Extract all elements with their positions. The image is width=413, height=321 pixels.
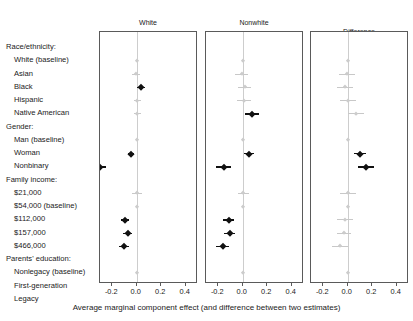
row-label: Black (14, 82, 33, 91)
row-group-label: Race/ethnicity: (6, 42, 56, 51)
row-label: $466,000 (14, 241, 46, 250)
x-axis-tick (266, 283, 267, 286)
x-axis-tick-label: 0.4 (180, 287, 190, 296)
x-axis-tick (242, 283, 243, 286)
x-axis-tick-label: -0.2 (316, 287, 329, 296)
estimate-point (127, 150, 133, 156)
row-group-label: Parents' education: (6, 254, 71, 263)
estimate-point (240, 138, 245, 143)
x-axis-tick-label: 0.4 (391, 287, 401, 296)
x-axis-tick (185, 283, 186, 286)
estimate-point (134, 72, 139, 77)
x-axis-tick (396, 283, 397, 286)
estimate-point (99, 164, 103, 170)
estimate-point (121, 243, 127, 249)
row-label: $21,000 (14, 188, 41, 197)
panel-nonwhite (205, 31, 303, 283)
estimate-point (240, 58, 245, 63)
panel-title-nonwhite-label: Nonwhite (205, 19, 303, 27)
estimate-point (345, 191, 350, 196)
estimate-point (345, 204, 350, 209)
x-axis-tick (217, 283, 218, 286)
estimate-point (346, 98, 351, 103)
estimate-point (225, 217, 231, 223)
estimate-point (246, 150, 252, 156)
row-label: Nonbinary (14, 161, 49, 170)
x-axis-tick-label: 0.2 (261, 287, 271, 296)
estimate-point (345, 58, 350, 63)
row-label: First-generation (14, 281, 67, 290)
estimate-point (363, 164, 369, 170)
x-axis-tick (291, 283, 292, 286)
estimate-point (124, 230, 130, 236)
row-label: Woman (14, 148, 40, 157)
x-axis-tick (111, 283, 112, 286)
estimate-point (249, 111, 255, 117)
estimate-point (357, 150, 363, 156)
x-axis-tick (136, 283, 137, 286)
row-label: Nonlegacy (baseline) (14, 267, 85, 276)
row-label: $112,000 (14, 214, 45, 223)
row-label: Native American (14, 108, 69, 117)
estimate-point (135, 191, 140, 196)
row-label: Asian (14, 69, 33, 78)
estimate-point (135, 111, 140, 116)
panel-white (99, 31, 197, 283)
row-group-label: Family income: (6, 175, 57, 184)
row-label: Man (baseline) (14, 135, 64, 144)
panel-title-white-label: White (99, 19, 197, 27)
estimate-point (135, 98, 140, 103)
x-axis-tick-label: 0.0 (342, 287, 352, 296)
zero-reference-line (243, 32, 244, 282)
x-axis-tick-label: 0.2 (366, 287, 376, 296)
estimate-point (134, 204, 139, 209)
x-axis-label: Average marginal component effect (and d… (0, 303, 413, 312)
row-label: $157,000 (14, 228, 46, 237)
zero-reference-line (137, 32, 138, 282)
estimate-point (345, 138, 350, 143)
estimate-point (227, 230, 233, 236)
row-group-label: Gender: (6, 122, 33, 131)
x-axis-tick (371, 283, 372, 286)
estimate-point (345, 72, 350, 77)
estimate-point (241, 191, 246, 196)
panel-difference (310, 31, 408, 283)
zero-reference-line (348, 32, 349, 282)
x-axis-tick-label: 0.0 (131, 287, 141, 296)
row-label: Hispanic (14, 95, 43, 104)
row-label: $54,000 (baseline) (14, 201, 77, 210)
estimate-point (138, 84, 144, 90)
estimate-point (338, 244, 343, 249)
x-axis-tick-label: -0.2 (105, 287, 118, 296)
row-label: White (baseline) (14, 55, 69, 64)
row-label: Legacy (14, 294, 39, 303)
x-axis-tick (160, 283, 161, 286)
estimate-point (345, 270, 350, 275)
estimate-point (219, 243, 225, 249)
estimate-point (134, 58, 139, 63)
estimate-point (240, 270, 245, 275)
x-axis-tick-label: 0.4 (286, 287, 296, 296)
estimate-point (240, 204, 245, 209)
estimate-point (354, 111, 359, 116)
estimate-point (242, 98, 247, 103)
x-axis-tick-label: -0.2 (211, 287, 224, 296)
x-axis-tick (347, 283, 348, 286)
x-axis-tick-label: 0.2 (155, 287, 165, 296)
x-axis-tick-label: 0.0 (237, 287, 247, 296)
estimate-point (122, 217, 128, 223)
estimate-point (342, 231, 347, 236)
estimate-point (221, 164, 227, 170)
x-axis-tick (322, 283, 323, 286)
coefficient-plot-figure: White (N = 428) Nonwhite (N = 156) Diffe… (0, 0, 413, 321)
estimate-point (134, 138, 139, 143)
estimate-point (134, 270, 139, 275)
